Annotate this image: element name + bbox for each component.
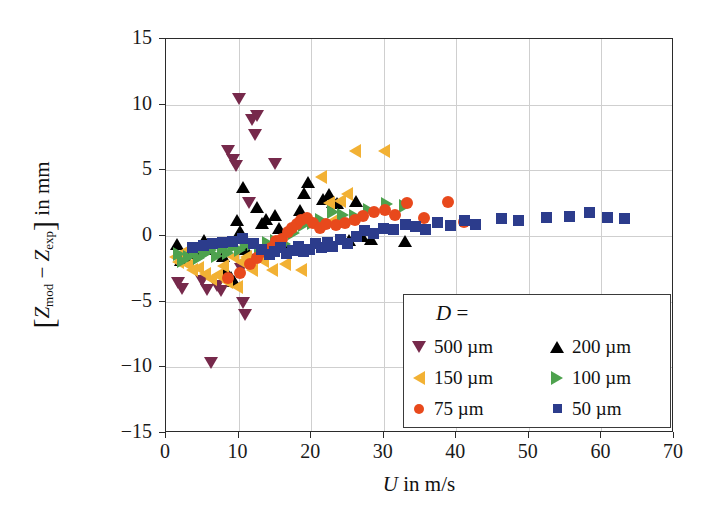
legend-label: 150 µm — [434, 367, 493, 389]
y-tick-label: 10 — [98, 91, 152, 115]
legend-item-50um: 50 µm — [532, 398, 670, 420]
data-point — [470, 219, 481, 230]
data-point — [432, 217, 443, 228]
x-tick-label: 10 — [208, 438, 268, 464]
y-tick — [159, 432, 165, 433]
x-axis-units: in m/s — [403, 472, 455, 496]
legend-row: 500 µm200 µm — [404, 331, 670, 362]
data-point — [420, 224, 431, 235]
data-point — [513, 215, 524, 226]
legend-row: 75 µm50 µm — [404, 393, 670, 424]
legend-row: 150 µm100 µm — [404, 362, 670, 393]
y-tick — [159, 38, 165, 39]
data-point — [602, 212, 613, 223]
data-point — [584, 207, 595, 218]
y-axis-bracket-open: [ — [27, 319, 60, 329]
y-axis-num-var: Z — [30, 307, 54, 319]
legend-title-variable: D — [436, 301, 451, 325]
y-axis-den-sub: exp — [41, 231, 56, 250]
legend-label: 500 µm — [434, 336, 493, 358]
y-axis-den-var: Z — [30, 250, 54, 262]
legend-label: 75 µm — [434, 398, 483, 420]
legend-entries: 500 µm200 µm150 µm100 µm75 µm50 µm — [404, 331, 670, 424]
data-point — [187, 242, 198, 253]
legend-marker-triangle-right-icon — [542, 369, 572, 387]
data-point — [564, 211, 575, 222]
y-tick — [159, 301, 165, 302]
x-tick-label: 20 — [280, 438, 340, 464]
data-point — [541, 212, 552, 223]
legend-marker-triangle-up-icon — [542, 338, 572, 356]
legend-label: 200 µm — [572, 336, 631, 358]
y-axis-title: [Zmod − Zexp] in mm — [27, 35, 61, 455]
y-axis-minus: − — [30, 267, 54, 279]
legend-label: 100 µm — [572, 367, 631, 389]
legend-item-500um: 500 µm — [404, 336, 532, 358]
legend-marker-triangle-down-icon — [404, 338, 434, 356]
x-tick-label: 30 — [353, 438, 413, 464]
data-point — [388, 224, 399, 235]
legend-item-200um: 200 µm — [532, 336, 670, 358]
figure-root: 010203040506070151050−5−10−15 U in m/s [… — [0, 0, 721, 526]
y-tick-label: 15 — [98, 25, 152, 49]
y-tick-label: −15 — [98, 419, 152, 443]
y-axis-units: in mm — [30, 161, 54, 215]
legend-title: D = — [436, 301, 468, 326]
x-tick-label: 70 — [643, 438, 703, 464]
y-tick-label: 5 — [98, 156, 152, 180]
legend-box: D = 500 µm200 µm150 µm100 µm75 µm50 µm — [403, 294, 671, 428]
legend-marker-circle-icon — [404, 400, 434, 418]
legend-item-150um: 150 µm — [404, 367, 532, 389]
data-point — [619, 213, 630, 224]
legend-marker-square-icon — [542, 400, 572, 418]
x-axis-title: U in m/s — [165, 472, 673, 497]
legend-title-equals: = — [456, 301, 468, 325]
x-tick-label: 50 — [498, 438, 558, 464]
y-tick — [159, 169, 165, 170]
data-point — [445, 220, 456, 231]
legend-label: 50 µm — [572, 398, 621, 420]
data-point — [496, 213, 507, 224]
legend-marker-triangle-left-icon — [404, 369, 434, 387]
y-tick — [159, 104, 165, 105]
legend-item-75um: 75 µm — [404, 398, 532, 420]
y-tick — [159, 366, 165, 367]
x-tick-label: 40 — [425, 438, 485, 464]
y-axis-num-sub: mod — [41, 284, 56, 307]
y-axis-bracket-close: ] — [27, 221, 60, 231]
legend-item-100um: 100 µm — [532, 367, 670, 389]
x-tick-label: 60 — [570, 438, 630, 464]
y-tick-label: −5 — [98, 288, 152, 312]
x-axis-variable: U — [383, 472, 398, 496]
y-tick-label: −10 — [98, 353, 152, 377]
y-tick — [159, 235, 165, 236]
y-tick-label: 0 — [98, 222, 152, 246]
